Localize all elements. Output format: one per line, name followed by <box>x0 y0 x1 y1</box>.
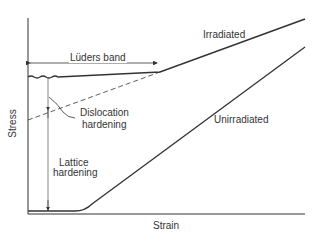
irradiated-curve <box>28 19 305 78</box>
dislocation-label-1: Dislocation <box>80 107 129 118</box>
dislocation-label-2: hardening <box>82 119 126 130</box>
x-axis-label: Strain <box>153 220 179 231</box>
irradiated-label: Irradiated <box>203 29 245 40</box>
unirradiated-label: Unirradiated <box>214 114 268 125</box>
lattice-label-2: hardening <box>53 167 97 178</box>
luders-band-label: Lüders band <box>69 52 127 63</box>
unirradiated-curve <box>28 47 305 211</box>
stress-strain-diagram <box>0 0 320 240</box>
y-axis-label: Stress <box>7 109 18 137</box>
